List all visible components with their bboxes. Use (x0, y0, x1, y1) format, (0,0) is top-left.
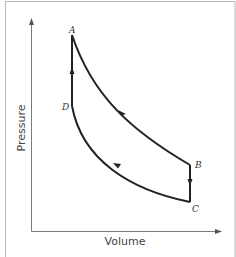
arrow-up-d-to-a-icon (70, 67, 75, 74)
arrow-down-b-to-c-icon (188, 179, 193, 186)
point-label-a: A (68, 25, 76, 35)
x-axis (32, 229, 223, 234)
point-label-c: C (192, 204, 199, 214)
arrow-c-to-d-icon (113, 163, 121, 169)
y-axis-arrow-icon (29, 18, 34, 25)
x-axis-arrow-icon (215, 229, 222, 234)
point-label-d: D (61, 102, 69, 112)
x-axis-label: Volume (105, 235, 146, 248)
y-axis (29, 18, 34, 232)
point-label-b: B (194, 160, 202, 170)
y-axis-label: Pressure (15, 104, 28, 151)
pv-diagram: Pressure Volume A D B C (0, 0, 236, 257)
